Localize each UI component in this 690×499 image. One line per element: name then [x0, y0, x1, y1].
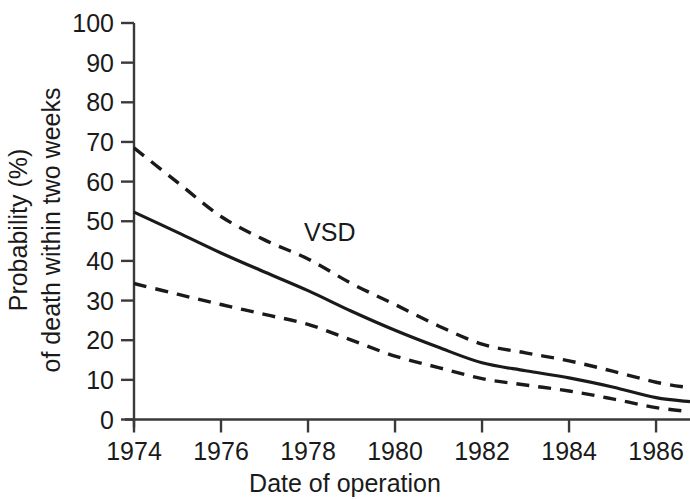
y-tick-label-0: 0: [100, 406, 114, 434]
x-tick-label-1974: 1974: [106, 437, 162, 465]
chart-canvas: 0102030405060708090100 19741976197819801…: [0, 0, 690, 499]
y-tick-label-100: 100: [72, 9, 114, 37]
x-axis-group: 1974197619781980198219841986: [106, 420, 690, 465]
x-tick-label-1982: 1982: [454, 437, 510, 465]
series-line-0: [134, 148, 690, 388]
data-series-group: [134, 148, 690, 412]
x-axis-ticks: [134, 420, 656, 433]
y-tick-label-10: 10: [86, 366, 114, 394]
y-axis-title-line-2: of death within two weeks: [37, 88, 65, 373]
x-axis-title: Date of operation: [249, 469, 441, 497]
vsd-annotation: VSD: [304, 218, 355, 246]
y-tick-label-90: 90: [86, 49, 114, 77]
y-tick-label-50: 50: [86, 207, 114, 235]
y-axis-title-line-1: Probability (%): [4, 149, 32, 312]
x-axis-tick-labels: 1974197619781980198219841986: [106, 437, 684, 465]
y-axis-tick-labels: 0102030405060708090100: [72, 9, 114, 434]
chart-figure: 0102030405060708090100 19741976197819801…: [0, 0, 690, 499]
y-axis-group: 0102030405060708090100: [72, 9, 134, 434]
y-tick-label-40: 40: [86, 247, 114, 275]
y-tick-label-30: 30: [86, 287, 114, 315]
y-axis-ticks: [121, 23, 134, 420]
chart-annotations: VSD: [304, 218, 355, 246]
y-tick-label-60: 60: [86, 168, 114, 196]
x-tick-label-1980: 1980: [367, 437, 423, 465]
y-tick-label-20: 20: [86, 326, 114, 354]
series-line-2: [134, 284, 690, 412]
y-tick-label-80: 80: [86, 88, 114, 116]
x-tick-label-1984: 1984: [541, 437, 597, 465]
y-tick-label-70: 70: [86, 128, 114, 156]
x-tick-label-1986: 1986: [628, 437, 684, 465]
x-tick-label-1978: 1978: [280, 437, 336, 465]
x-tick-label-1976: 1976: [193, 437, 249, 465]
series-line-1: [134, 212, 690, 402]
